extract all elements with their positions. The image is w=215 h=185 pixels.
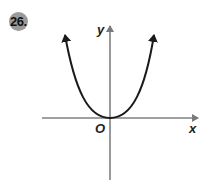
- graph: [0, 0, 215, 185]
- y-axis-label: y: [97, 22, 104, 37]
- origin-label: O: [95, 121, 105, 136]
- parabola-curve: [65, 35, 110, 118]
- x-axis-label: x: [189, 121, 196, 136]
